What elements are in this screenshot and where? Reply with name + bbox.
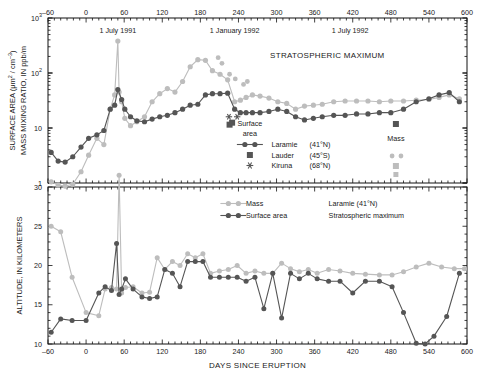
data-point	[78, 144, 83, 149]
data-point	[203, 92, 208, 97]
data-point	[426, 96, 431, 101]
data-point	[70, 154, 75, 159]
svg-text:240: 240	[232, 8, 244, 17]
legend-entry-laramie: Laramie(41°N)	[237, 140, 331, 149]
data-point	[208, 275, 213, 280]
data-point	[423, 342, 428, 347]
data-point	[109, 288, 114, 293]
data-point	[388, 110, 393, 115]
data-point	[331, 113, 336, 118]
data-point	[401, 310, 406, 315]
data-point	[78, 169, 83, 174]
data-point	[70, 318, 75, 323]
svg-text:240: 240	[232, 347, 244, 356]
data-point	[108, 107, 113, 112]
data-point	[436, 92, 441, 97]
data-point	[302, 104, 307, 109]
svg-text:Stratospheric maximum: Stratospheric maximum	[329, 211, 405, 220]
svg-text:540: 540	[423, 8, 435, 17]
svg-text:0: 0	[84, 8, 88, 17]
data-point	[131, 287, 136, 292]
svg-text:600: 600	[461, 8, 473, 17]
data-point	[112, 103, 117, 108]
data-point	[119, 97, 124, 102]
data-point	[217, 268, 222, 273]
svg-text:420: 420	[347, 347, 359, 356]
data-point	[96, 290, 101, 295]
data-point	[63, 159, 68, 164]
svg-text:10: 10	[34, 340, 42, 349]
data-point	[444, 314, 449, 319]
data-point-stray	[241, 82, 246, 87]
data-point	[170, 271, 175, 276]
data-point	[226, 267, 231, 272]
data-point	[388, 98, 393, 103]
svg-text:SURFACE AREA (μm2 / cm–3): SURFACE AREA (μm2 / cm–3)	[7, 50, 17, 151]
svg-text:(41°N): (41°N)	[310, 140, 331, 149]
data-point	[284, 101, 289, 106]
data-point	[142, 119, 147, 124]
data-point	[165, 86, 170, 91]
data-point	[275, 99, 280, 104]
svg-text:MASS MIXING RATIO, IN ppb/m: MASS MIXING RATIO, IN ppb/m	[19, 46, 28, 155]
scientific-figure: –60060120180240300360420480540600–600601…	[0, 0, 487, 389]
data-point	[180, 79, 185, 84]
data-point	[84, 310, 89, 315]
series-line	[51, 244, 459, 344]
data-point	[200, 251, 205, 256]
data-point	[128, 123, 133, 128]
data-point	[226, 275, 231, 280]
svg-text:–60: –60	[42, 8, 54, 17]
svg-text:20: 20	[34, 261, 42, 270]
data-point	[225, 77, 230, 82]
data-point	[244, 271, 249, 276]
date-annotations: 1 July 19911 January 19921 July 1992	[99, 26, 368, 35]
data-point	[257, 94, 262, 99]
svg-text:(45°S): (45°S)	[310, 151, 330, 160]
x-axis-title: DAYS SINCE ERUPTION	[209, 361, 306, 370]
data-point	[377, 279, 382, 284]
data-point	[306, 271, 311, 276]
data-point	[188, 103, 193, 108]
data-point	[414, 99, 419, 104]
data-point-stray	[245, 79, 250, 84]
svg-text:30: 30	[34, 183, 42, 192]
data-point	[172, 89, 177, 94]
data-point	[139, 294, 144, 299]
svg-text:60: 60	[120, 8, 128, 17]
data-point	[293, 114, 298, 119]
data-point	[122, 107, 127, 112]
data-point	[326, 267, 331, 272]
series-line	[51, 175, 464, 316]
svg-text:120: 120	[156, 347, 168, 356]
data-point	[115, 87, 120, 92]
data-point	[180, 107, 185, 112]
data-point	[235, 263, 240, 268]
data-point	[232, 107, 237, 112]
svg-text:Lauder: Lauder	[271, 151, 294, 160]
data-point	[217, 91, 222, 96]
data-point	[128, 114, 133, 119]
data-point	[170, 259, 175, 264]
data-point	[193, 259, 198, 264]
data-point	[114, 241, 119, 246]
data-point	[377, 99, 382, 104]
data-point	[49, 179, 54, 184]
data-point	[49, 330, 54, 335]
data-point	[252, 268, 257, 273]
data-point	[261, 271, 266, 276]
data-point	[165, 113, 170, 118]
data-point	[462, 266, 467, 271]
svg-text:480: 480	[385, 347, 397, 356]
data-point	[354, 98, 359, 103]
data-point	[243, 110, 248, 115]
data-point	[338, 268, 343, 273]
data-point	[117, 173, 122, 178]
svg-text:STRATOSPHERIC MAXIMUM: STRATOSPHERIC MAXIMUM	[270, 51, 384, 60]
svg-text:area: area	[243, 129, 257, 138]
data-point	[315, 271, 320, 276]
data-point	[288, 266, 293, 271]
data-point	[210, 91, 215, 96]
data-point	[354, 111, 359, 116]
data-point	[363, 279, 368, 284]
